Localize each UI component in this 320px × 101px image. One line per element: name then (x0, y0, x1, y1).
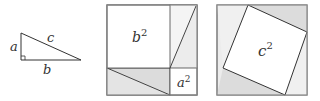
right-triangle: a c b (10, 30, 81, 77)
label-b: b (43, 62, 51, 77)
label-a: a (10, 39, 18, 54)
right-angle-mark (21, 56, 25, 60)
label-c: c (47, 30, 55, 45)
square-c2: c2 (217, 5, 307, 95)
square-a2-b2: b2 a2 (107, 5, 197, 95)
pythagorean-diagram: a c b b2 a2 c2 (0, 0, 320, 101)
